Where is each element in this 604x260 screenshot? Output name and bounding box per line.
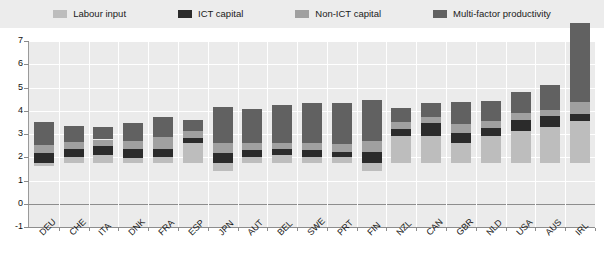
bar-group[interactable] <box>213 0 233 186</box>
bar-segment <box>302 143 322 150</box>
bar-group[interactable] <box>362 0 382 186</box>
column-separator <box>327 41 328 227</box>
bar-segment <box>391 108 411 122</box>
x-tick <box>118 228 119 231</box>
bar-group[interactable] <box>93 0 113 186</box>
bar-group[interactable] <box>34 0 54 186</box>
column-separator <box>118 41 119 227</box>
bar-group[interactable] <box>451 0 471 186</box>
x-tick <box>476 228 477 231</box>
bar-segment <box>362 152 382 162</box>
y-axis-label-3: 3 <box>4 129 23 138</box>
bar-segment <box>570 102 590 114</box>
bar-segment <box>64 157 84 163</box>
column-separator <box>506 41 507 227</box>
y-tick-4 <box>24 111 29 112</box>
bar-group[interactable] <box>481 0 501 186</box>
bar-segment <box>362 141 382 153</box>
stacked-bar-chart: Labour input ICT capital Non-ICT capital… <box>0 0 604 260</box>
bar-segment <box>332 103 352 144</box>
bar-group[interactable] <box>332 0 352 186</box>
bar-segment <box>272 149 292 155</box>
column-separator <box>238 41 239 227</box>
y-tick-2 <box>24 157 29 158</box>
bar-segment <box>242 109 262 143</box>
bar-segment <box>183 120 203 132</box>
bar-segment <box>421 103 441 117</box>
bar-segment <box>123 149 143 158</box>
bar-segment <box>302 103 322 143</box>
bar-segment <box>540 116 560 126</box>
bar-segment <box>93 140 113 147</box>
bar-segment <box>153 137 173 149</box>
bar-segment <box>213 163 233 171</box>
zero-line <box>29 204 595 205</box>
x-tick <box>595 228 596 231</box>
bar-segment <box>421 136 441 163</box>
y-axis-label-4: 4 <box>4 106 23 115</box>
bar-group[interactable] <box>153 0 173 186</box>
bar-group[interactable] <box>302 0 322 186</box>
bar-group[interactable] <box>123 0 143 186</box>
x-tick <box>506 228 507 231</box>
bar-segment <box>511 113 531 120</box>
bar-segment <box>93 146 113 154</box>
bar-group[interactable] <box>511 0 531 186</box>
bar-segment <box>391 136 411 163</box>
bar-segment <box>153 117 173 137</box>
bar-segment <box>540 85 560 111</box>
bar-segment <box>213 107 233 143</box>
bar-segment <box>511 92 531 113</box>
x-tick <box>535 228 536 231</box>
y-axis-label--1: -1 <box>4 222 23 231</box>
column-separator <box>89 41 90 227</box>
bar-group[interactable] <box>540 0 560 186</box>
column-separator <box>535 41 536 227</box>
bar-segment <box>451 102 471 124</box>
bar-group[interactable] <box>183 0 203 186</box>
bar-segment <box>34 122 54 145</box>
x-tick <box>446 228 447 231</box>
bar-segment <box>302 157 322 163</box>
bar-segment <box>64 149 84 157</box>
column-separator <box>386 41 387 227</box>
x-tick <box>327 228 328 231</box>
bar-segment <box>421 123 441 136</box>
bar-segment <box>570 114 590 121</box>
bar-segment <box>391 129 411 136</box>
column-separator <box>208 41 209 227</box>
x-tick <box>267 228 268 231</box>
x-tick <box>148 228 149 231</box>
bar-segment <box>570 23 590 102</box>
column-separator <box>267 41 268 227</box>
x-tick <box>178 228 179 231</box>
y-tick-7 <box>24 41 29 42</box>
bar-group[interactable] <box>64 0 84 186</box>
bar-segment <box>123 158 143 163</box>
column-separator <box>148 41 149 227</box>
bar-segment <box>540 110 560 116</box>
bar-segment <box>272 155 292 163</box>
bar-segment <box>213 143 233 153</box>
bar-segment <box>481 136 501 163</box>
y-tick--1 <box>24 227 29 228</box>
bar-group[interactable] <box>242 0 262 186</box>
bar-segment <box>332 157 352 163</box>
bar-group[interactable] <box>421 0 441 186</box>
bar-segment <box>64 142 84 149</box>
bar-group[interactable] <box>272 0 292 186</box>
bar-segment <box>481 121 501 128</box>
bar-group[interactable] <box>391 0 411 186</box>
bar-group[interactable] <box>570 0 590 186</box>
bar-segment <box>64 126 84 142</box>
bar-segment <box>481 128 501 136</box>
column-separator <box>178 41 179 227</box>
bar-segment <box>153 149 173 157</box>
y-tick-6 <box>24 64 29 65</box>
bar-segment <box>362 163 382 171</box>
bar-segment <box>183 138 203 143</box>
x-tick <box>416 228 417 231</box>
bar-segment <box>332 144 352 152</box>
column-separator <box>476 41 477 227</box>
x-tick <box>357 228 358 231</box>
